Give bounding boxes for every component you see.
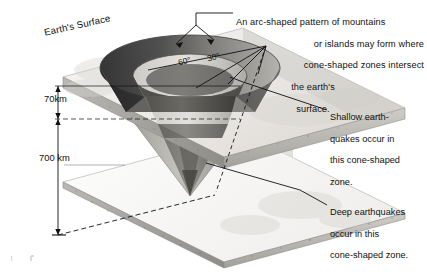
annotation-deep-line-3: cone-shaped zone. bbox=[330, 250, 427, 261]
depth-label-70km: 70km bbox=[44, 93, 67, 104]
diagram-canvas: Earth's Surface 70km 700 km 60° 30° An a… bbox=[0, 0, 427, 272]
annotation-shallow-line-3: this cone-shaped bbox=[330, 155, 426, 166]
annotation-shallow-zone: Shallow earth- quakes occur in this cone… bbox=[330, 101, 426, 199]
annotation-deep-line-2: occur in this bbox=[330, 229, 427, 240]
annotation-shallow-line-4: zone. bbox=[330, 177, 426, 188]
annotation-shallow-line-1: Shallow earth- bbox=[330, 112, 426, 123]
annotation-arc-line-3: cone-shaped zones intersect bbox=[236, 60, 424, 71]
scan-artifacts bbox=[11, 255, 34, 261]
depth-label-700km: 700 km bbox=[39, 152, 70, 163]
annotation-deep-line-1: Deep earthquakes bbox=[330, 207, 427, 218]
annotation-deep-zone: Deep earthquakes occur in this cone-shap… bbox=[330, 196, 427, 272]
annotation-shallow-line-2: quakes occur in bbox=[330, 134, 426, 145]
annotation-arc-line-2: or islands may form where bbox=[236, 39, 424, 50]
annotation-arc-line-1: An arc-shaped pattern of mountains bbox=[236, 17, 424, 28]
annotation-arc-line-4: the earth's bbox=[236, 82, 424, 93]
